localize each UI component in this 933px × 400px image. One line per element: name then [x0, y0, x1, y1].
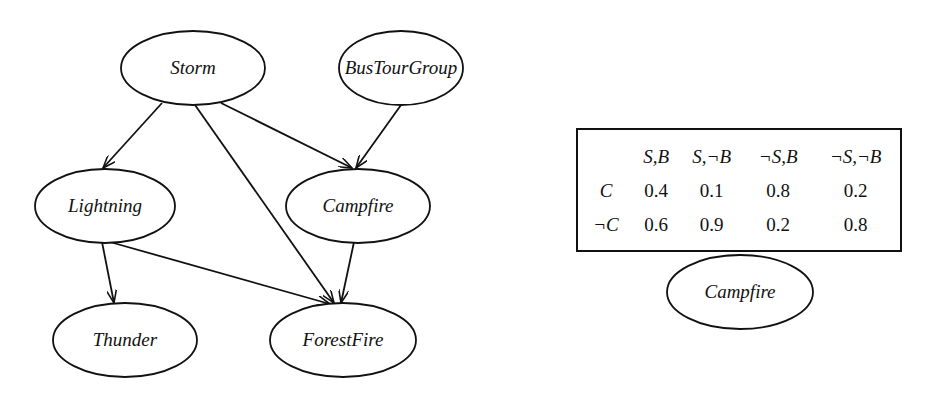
node-bustourgroup: BusTourGroup [339, 31, 463, 105]
edge-storm-campfire [221, 103, 352, 168]
cpt-cell: 0.2 [745, 208, 812, 242]
cpt-col-header: S,¬B [678, 140, 745, 174]
cpt-col-header: S,B [634, 140, 678, 174]
edge-lightning-thunder [102, 242, 114, 303]
cpt-cell: 0.8 [745, 174, 812, 208]
cpt-table: S,B S,¬B ¬S,B ¬S,¬B C 0.4 0.1 0.8 0.2 ¬C… [578, 140, 900, 242]
node-label-campfire: Campfire [322, 195, 393, 216]
cpt-corner [578, 140, 634, 174]
cpt-cell: 0.8 [811, 208, 900, 242]
cpt-cell: 0.2 [811, 174, 900, 208]
cpt-node-campfire: Campfire [667, 255, 813, 329]
cpt-row-header: ¬C [578, 208, 634, 242]
cpt-row-header: C [578, 174, 634, 208]
cpt-node-label: Campfire [704, 281, 775, 302]
cpt-col-header: ¬S,¬B [811, 140, 900, 174]
node-label-storm: Storm [170, 57, 215, 78]
cpt-cell: 0.6 [634, 208, 678, 242]
node-label-forestfire: ForestFire [302, 329, 384, 350]
cpt-header-row: S,B S,¬B ¬S,B ¬S,¬B [578, 140, 900, 174]
cpt-cell: 0.9 [678, 208, 745, 242]
node-label-thunder: Thunder [93, 329, 158, 350]
conditional-probability-table: S,B S,¬B ¬S,B ¬S,¬B C 0.4 0.1 0.8 0.2 ¬C… [576, 128, 902, 252]
cpt-row: C 0.4 0.1 0.8 0.2 [578, 174, 900, 208]
node-thunder: Thunder [53, 303, 197, 377]
cpt-col-header: ¬S,B [745, 140, 812, 174]
node-forestfire: ForestFire [270, 303, 416, 377]
cpt-cell: 0.1 [678, 174, 745, 208]
cpt-cell: 0.4 [634, 174, 678, 208]
node-campfire: Campfire [286, 169, 430, 243]
edge-storm-lightning [103, 103, 162, 168]
edge-bustourgroup-campfire [356, 105, 401, 168]
node-storm: Storm [121, 31, 265, 105]
node-lightning: Lightning [35, 169, 175, 243]
cpt-row: ¬C 0.6 0.9 0.2 0.8 [578, 208, 900, 242]
node-label-lightning: Lightning [67, 195, 142, 216]
node-label-bustourgroup: BusTourGroup [345, 57, 458, 78]
edge-campfire-forestfire [341, 242, 354, 303]
